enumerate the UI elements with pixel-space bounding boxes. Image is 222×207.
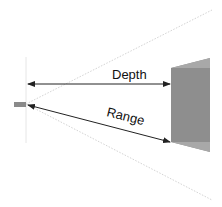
range-arrow <box>28 105 170 142</box>
range-label: Range <box>105 104 146 128</box>
sensor-icon <box>14 102 26 107</box>
depth-label: Depth <box>112 67 147 82</box>
depth-vs-range-diagram: Depth Range <box>0 0 222 207</box>
target-object <box>171 58 210 152</box>
target-top-shade <box>171 58 210 68</box>
target-bottom-shade <box>171 142 210 152</box>
diagram-canvas: Depth Range <box>0 0 222 207</box>
